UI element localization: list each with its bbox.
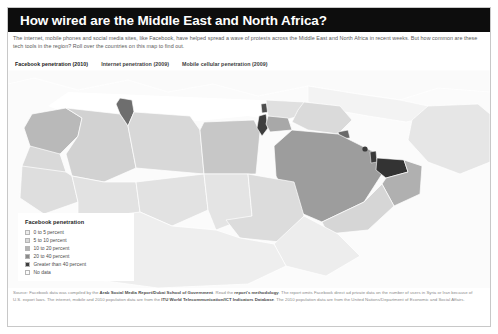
tab-label: Mobile cellular penetration (2009) — [182, 61, 268, 67]
region-egypt[interactable] — [200, 120, 260, 174]
region-libya[interactable] — [128, 112, 204, 174]
infographic-root: How wired are the Middle East and North … — [0, 0, 498, 334]
legend-label: Greater than 40 percent — [34, 262, 87, 267]
legend-label: 5 to 10 percent — [34, 238, 67, 243]
legend-label: No data — [34, 270, 51, 275]
footer-text-c: . Read the — [213, 290, 234, 295]
legend-label: 0 to 5 percent — [34, 230, 64, 235]
footer-text-a: Source: Facebook data was compiled by th… — [13, 290, 100, 295]
legend-title: Facebook penetration — [25, 219, 128, 225]
footer-link-arab-social-media-report[interactable]: Arab Social Media Report/Dubai School of… — [100, 290, 213, 295]
legend-label: 10 to 20 percent — [34, 246, 70, 251]
footer-link-itu-world-b[interactable]: Telecommunication/ICT Indicators Databas… — [183, 297, 274, 302]
page-title: How wired are the Middle East and North … — [20, 13, 327, 28]
footer-link-methodology[interactable]: report's methodology — [234, 290, 278, 295]
legend-swatch-no-data — [25, 270, 30, 275]
source-note: Source: Facebook data was compiled by th… — [13, 290, 481, 303]
legend-item[interactable]: 0 to 5 percent — [25, 229, 128, 237]
region-bahrain[interactable] — [362, 146, 367, 151]
tab-facebook-penetration[interactable]: Facebook penetration (2010) — [9, 57, 95, 70]
footer-text-line3b: . The 2010 population data are from the … — [274, 297, 465, 302]
tab-mobile-cellular-penetration[interactable]: Mobile cellular penetration (2009) — [176, 57, 275, 70]
legend-item[interactable]: 5 to 10 percent — [25, 237, 128, 245]
tab-internet-penetration[interactable]: Internet penetration (2009) — [95, 57, 176, 70]
legend-swatch-5-10 — [25, 238, 30, 243]
footer-link-itu-world-a[interactable]: ITU World — [161, 297, 181, 302]
map-legend: Facebook penetration 0 to 5 percent 5 to… — [18, 213, 134, 281]
legend-swatch-10-20 — [25, 246, 30, 251]
choropleth-map[interactable]: Facebook penetration 0 to 5 percent 5 to… — [8, 70, 490, 288]
legend-item[interactable]: Greater than 40 percent — [25, 261, 128, 269]
legend-item[interactable]: No data — [25, 269, 128, 277]
region-jordan[interactable] — [266, 116, 292, 132]
legend-item[interactable]: 20 to 40 percent — [25, 253, 128, 261]
tab-bar-filler — [275, 57, 489, 70]
legend-swatch-over-40 — [25, 262, 30, 267]
legend-item[interactable]: 10 to 20 percent — [25, 245, 128, 253]
deck-text: The internet, mobile phones and social m… — [13, 34, 481, 51]
legend-label: 20 to 40 percent — [34, 254, 70, 259]
tab-label: Internet penetration (2009) — [101, 61, 169, 67]
legend-swatch-20-40 — [25, 254, 30, 259]
tab-label: Facebook penetration (2010) — [15, 61, 88, 67]
region-qatar[interactable] — [370, 151, 377, 163]
footer-text-e: . The report omits Facebook direct ad — [279, 290, 351, 295]
title-bar: How wired are the Middle East and North … — [8, 8, 490, 32]
tab-bar: Facebook penetration (2010) Internet pen… — [9, 57, 489, 70]
legend-swatch-0-5 — [25, 230, 30, 235]
